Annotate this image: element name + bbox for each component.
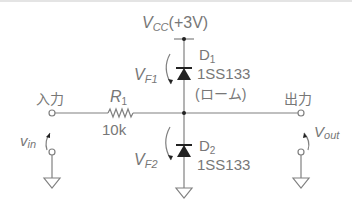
ground-icon (44, 178, 60, 188)
vout-label: Vout (314, 123, 340, 141)
d1-label: D1 (199, 46, 216, 65)
ground-icon (176, 188, 192, 198)
vf2-label: VF2 (134, 151, 158, 170)
vf2-arrow (166, 127, 171, 160)
output-return-terminal (298, 149, 304, 155)
d2-part: 1SS133 (197, 156, 250, 173)
d2-label: D2 (199, 137, 216, 156)
r1-label: R1 (110, 88, 128, 107)
d1-part: 1SS133 (197, 65, 250, 82)
input-terminal (49, 110, 55, 116)
diode-d1-icon (177, 68, 191, 80)
junction-dot (182, 111, 186, 115)
r1-value: 10k (102, 121, 127, 138)
arrowhead (46, 133, 50, 138)
vf1-label: VF1 (134, 66, 158, 85)
vin-label: vin (20, 132, 36, 150)
circuit-schematic: VCC(+3V) D1 1SS133 (ローム) VF1 VF2 D2 1SS1… (0, 0, 352, 205)
input-return-terminal (49, 149, 55, 155)
vcc-node-dot (182, 37, 186, 41)
vcc-label: VCC(+3V) (142, 14, 208, 33)
diode-d2-icon (177, 145, 191, 157)
input-label: 入力 (36, 91, 64, 107)
d1-maker: (ローム) (195, 86, 246, 102)
resistor-r1 (108, 109, 133, 117)
ground-icon (293, 178, 309, 188)
output-terminal (298, 110, 304, 116)
output-label: 出力 (284, 91, 312, 107)
